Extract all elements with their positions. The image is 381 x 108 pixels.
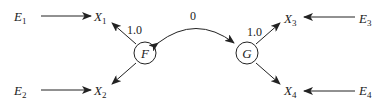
loading-f-x1-label: 1.0: [127, 23, 142, 37]
observed-x4-label: X4: [283, 83, 297, 100]
loading-g-x3-label: 1.0: [247, 25, 262, 39]
error-e2-label: E2: [13, 83, 26, 100]
observed-x1-label: X1: [93, 9, 106, 26]
factor-f-label: F: [140, 46, 150, 61]
observed-x2-label: X2: [93, 83, 106, 100]
error-e4-label: E4: [358, 83, 372, 100]
path-diagram: E1 E2 E3 E4 X1 X2 X3 X4 F G 1.0 1.0 0: [0, 0, 381, 108]
covariance-f-g-arrow: [158, 29, 234, 44]
edge-g-x4-arrow: [256, 63, 280, 84]
error-e3-label: E3: [358, 11, 372, 28]
factor-g-label: G: [242, 46, 252, 61]
covariance-label: 0: [190, 9, 196, 23]
error-e1-label: E1: [13, 9, 26, 26]
edge-f-x2-arrow: [112, 63, 136, 84]
observed-x3-label: X3: [283, 11, 297, 28]
